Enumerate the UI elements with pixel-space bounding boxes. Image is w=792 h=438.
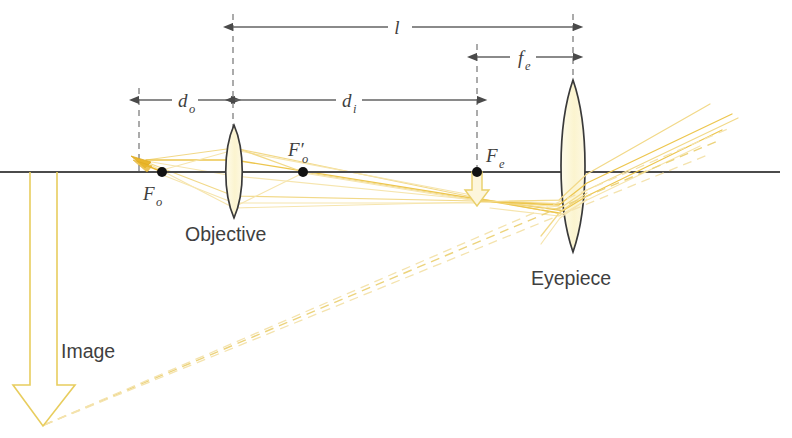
focal-point-Fo-prime — [298, 167, 308, 177]
dimension-fe-sublabel: e — [525, 59, 531, 73]
dimension-di-label: d — [342, 90, 352, 111]
text-labels: Objective Eyepiece Image — [61, 223, 611, 362]
dimension-do: d o — [139, 90, 231, 116]
label-objective: Objective — [185, 223, 266, 245]
ray-bundle — [146, 147, 573, 216]
ray-bundle-exit — [477, 104, 738, 244]
final-image-arrow-shape — [13, 172, 75, 426]
label-Fo: F — [142, 183, 155, 204]
focal-point-Fo — [157, 167, 167, 177]
final-image-arrow — [13, 172, 75, 426]
eyepiece-lens[interactable] — [561, 80, 585, 252]
diagram-canvas: l f e d o d i — [0, 0, 792, 438]
dimension-l: l — [233, 17, 573, 38]
vertical-guides — [139, 14, 573, 172]
dimension-do-sublabel: o — [189, 102, 195, 116]
label-Fo-prime-sub: o — [302, 152, 308, 166]
dimension-di: d i — [235, 90, 477, 116]
ray-4 — [146, 162, 573, 204]
dimension-do-label: d — [178, 90, 188, 111]
label-Fe-sub: e — [499, 157, 505, 171]
dimension-di-sublabel: i — [353, 102, 357, 116]
focal-point-Fe — [472, 167, 482, 177]
dimension-fe: f e — [477, 47, 573, 73]
eyepiece-lens-body[interactable] — [561, 80, 585, 252]
dimension-l-label: l — [394, 17, 399, 38]
telescope-ray-diagram: l f e d o d i — [0, 0, 792, 438]
label-Fo-sub: o — [156, 195, 162, 209]
label-image: Image — [61, 340, 115, 362]
label-eyepiece: Eyepiece — [531, 267, 611, 289]
label-Fe: F — [485, 145, 498, 166]
